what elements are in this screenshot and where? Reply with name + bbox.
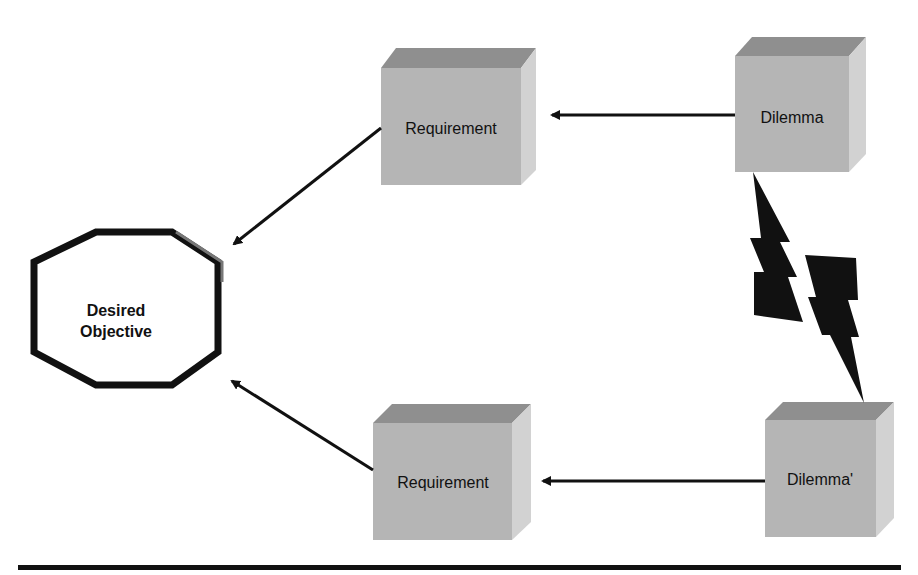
bottom-rule: [18, 565, 901, 570]
diagram-canvas: Desired Objective Requirement Dilemma Re…: [0, 0, 918, 575]
dilemma-top-label: Dilemma: [760, 109, 823, 126]
arrow-requirement-top-to-objective: [234, 128, 381, 244]
conflict-lightning-icon: [750, 172, 864, 403]
requirement-box-top: Requirement: [381, 48, 536, 185]
objective-label-line2: Objective: [80, 323, 152, 340]
dilemma-box-bottom: Dilemma': [765, 402, 894, 537]
dilemma-bottom-label: Dilemma': [787, 471, 853, 488]
requirement-box-bottom: Requirement: [373, 404, 531, 540]
objective-label-line1: Desired: [87, 302, 146, 319]
requirement-top-label: Requirement: [405, 120, 497, 137]
dilemma-box-top: Dilemma: [735, 37, 866, 172]
arrow-requirement-bottom-to-objective: [232, 381, 373, 470]
requirement-bottom-label: Requirement: [397, 474, 489, 491]
desired-objective-octagon: Desired Objective: [34, 232, 222, 385]
